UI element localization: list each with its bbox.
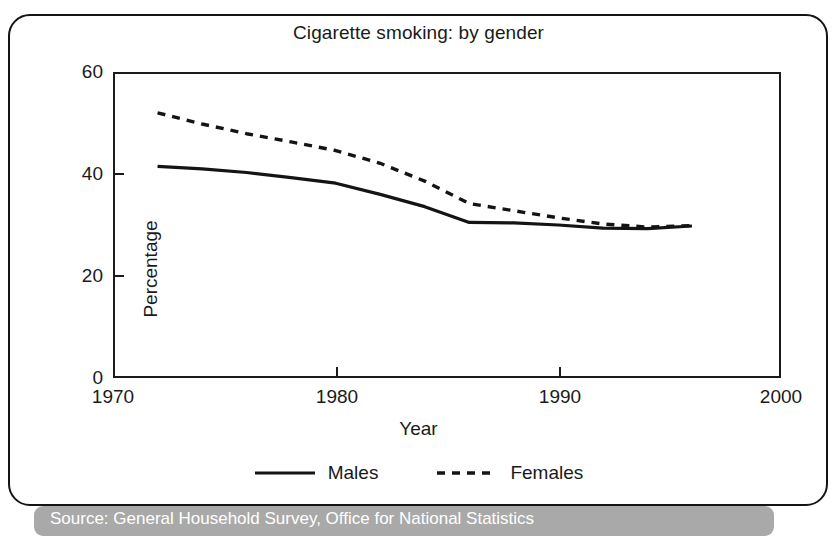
y-axis-tick-labels: 60 40 20 0 [55, 72, 103, 378]
legend-item-females: Females [436, 462, 583, 484]
x-tick-1980: 1980 [297, 386, 377, 408]
series-line-males [158, 166, 692, 228]
x-axis-tick-labels: 1970 1980 1990 2000 [0, 386, 837, 414]
plot-svg [113, 72, 781, 378]
y-tick-marks [113, 174, 124, 276]
legend-label-males: Males [328, 462, 379, 484]
y-tick-60: 60 [82, 61, 103, 83]
x-axis-title: Year [0, 418, 837, 440]
legend-swatch-dotted-icon [436, 467, 498, 479]
x-tick-1970: 1970 [73, 386, 153, 408]
y-tick-40: 40 [82, 163, 103, 185]
legend-label-females: Females [510, 462, 583, 484]
x-tick-marks [337, 367, 560, 378]
series-line-females [158, 113, 692, 227]
legend-swatch-solid-icon [254, 467, 316, 479]
y-axis-title: Percentage [140, 169, 162, 369]
y-tick-20: 20 [82, 265, 103, 287]
chart-title: Cigarette smoking: by gender [0, 22, 837, 44]
x-tick-2000: 2000 [741, 386, 821, 408]
chart-legend: Males Females [0, 462, 837, 484]
legend-item-males: Males [254, 462, 379, 484]
plot-area: Percentage [113, 72, 781, 378]
x-tick-1990: 1990 [520, 386, 600, 408]
source-note: Source: General Household Survey, Office… [34, 506, 774, 536]
